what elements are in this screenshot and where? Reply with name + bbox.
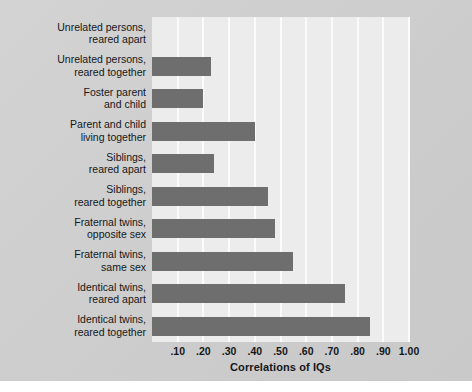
category-label: Foster parentand child xyxy=(0,82,146,115)
bar xyxy=(152,57,211,76)
category-label: Unrelated persons,reared together xyxy=(0,50,146,83)
x-tick-label: .20 xyxy=(196,345,211,357)
bar-row xyxy=(152,180,409,213)
bar-row xyxy=(152,50,409,83)
bar xyxy=(152,284,345,303)
x-tick-label: .80 xyxy=(350,345,365,357)
plot-area xyxy=(152,17,409,342)
x-axis-title: Correlations of IQs xyxy=(152,361,409,373)
category-label: Fraternal twins,same sex xyxy=(0,245,146,278)
x-axis-tick-labels: .10.20.30.40.50.60.70.80.901.00 xyxy=(152,345,409,361)
bar-row xyxy=(152,212,409,245)
category-label-line: Unrelated persons, xyxy=(57,21,146,34)
category-label-line: Identical twins, xyxy=(77,281,146,294)
category-label-line: Parent and child xyxy=(70,118,146,131)
category-label: Siblings,reared apart xyxy=(0,147,146,180)
category-label-line: Identical twins, xyxy=(77,313,146,326)
category-label-line: reared apart xyxy=(89,293,146,306)
x-tick-label: 1.00 xyxy=(399,345,419,357)
bar xyxy=(152,317,370,336)
bar-row xyxy=(152,17,409,50)
bar xyxy=(152,154,214,173)
category-label: Parent and childliving together xyxy=(0,115,146,148)
category-label-line: reared together xyxy=(74,326,146,339)
category-label: Identical twins,reared apart xyxy=(0,277,146,310)
category-label-line: Fraternal twins, xyxy=(74,248,146,261)
category-label-line: reared together xyxy=(74,196,146,209)
category-label: Identical twins,reared together xyxy=(0,310,146,343)
category-label: Siblings,reared together xyxy=(0,180,146,213)
bar xyxy=(152,252,293,271)
category-label-line: Fraternal twins, xyxy=(74,216,146,229)
x-tick-label: .10 xyxy=(170,345,185,357)
bars-layer xyxy=(152,17,409,342)
x-tick-label: .40 xyxy=(247,345,262,357)
category-label-line: same sex xyxy=(101,261,146,274)
category-label: Fraternal twins,opposite sex xyxy=(0,212,146,245)
bar-row xyxy=(152,82,409,115)
bar xyxy=(152,219,275,238)
bar-row xyxy=(152,310,409,343)
x-tick-label: .70 xyxy=(325,345,340,357)
category-label-line: and child xyxy=(104,98,146,111)
category-label: Unrelated persons,reared apart xyxy=(0,17,146,50)
category-label-line: living together xyxy=(81,131,146,144)
bar xyxy=(152,122,255,141)
bar-row xyxy=(152,277,409,310)
category-label-line: reared apart xyxy=(89,33,146,46)
x-tick-label: .50 xyxy=(273,345,288,357)
category-label-line: Foster parent xyxy=(84,86,146,99)
x-tick-label: .90 xyxy=(376,345,391,357)
bar xyxy=(152,89,203,108)
x-tick-label: .60 xyxy=(299,345,314,357)
category-label-line: reared apart xyxy=(89,163,146,176)
category-axis-labels: Unrelated persons,reared apartUnrelated … xyxy=(0,17,146,342)
iq-correlation-chart-figure: Unrelated persons,reared apartUnrelated … xyxy=(0,0,472,392)
bar xyxy=(152,187,268,206)
category-label-line: reared together xyxy=(74,66,146,79)
x-tick-label: .30 xyxy=(222,345,237,357)
bar-row xyxy=(152,115,409,148)
chart-body: Unrelated persons,reared apartUnrelated … xyxy=(0,0,472,381)
bar-row xyxy=(152,147,409,180)
category-label-line: Siblings, xyxy=(106,183,146,196)
category-label-line: Unrelated persons, xyxy=(57,53,146,66)
category-label-line: opposite sex xyxy=(87,228,146,241)
category-label-line: Siblings, xyxy=(106,151,146,164)
bar-row xyxy=(152,245,409,278)
